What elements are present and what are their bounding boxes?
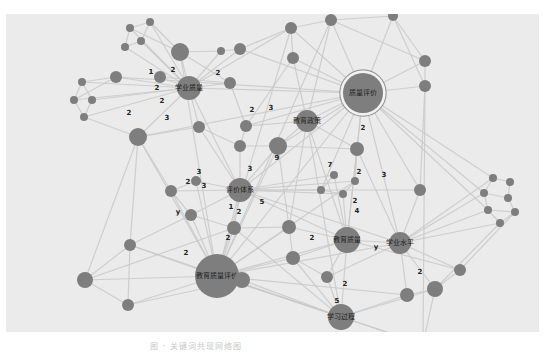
graph-node[interactable] [269,137,287,155]
graph-node[interactable] [504,194,512,202]
keyword-node[interactable]: 学业质量 [175,76,203,100]
graph-node[interactable] [282,220,296,234]
node-circle[interactable] [504,194,512,202]
graph-node[interactable] [129,128,147,146]
graph-node[interactable] [330,171,338,179]
graph-node[interactable] [124,239,136,251]
node-circle[interactable] [137,37,145,45]
node-circle[interactable] [124,239,136,251]
node-circle[interactable] [129,128,147,146]
node-circle[interactable] [80,113,88,121]
graph-node[interactable] [70,96,78,104]
graph-node[interactable] [339,190,347,198]
node-circle[interactable] [191,176,201,186]
graph-node[interactable] [414,184,426,196]
node-circle[interactable] [286,251,300,265]
node-circle[interactable] [330,171,338,179]
graph-node[interactable] [80,113,88,121]
graph-node[interactable] [165,185,177,197]
node-circle[interactable] [350,142,364,156]
graph-node[interactable] [185,209,197,221]
graph-node[interactable] [511,208,519,216]
node-circle[interactable] [480,189,488,197]
graph-node[interactable] [325,14,337,26]
node-circle[interactable] [185,209,197,221]
node-circle[interactable] [78,78,86,86]
graph-node[interactable] [285,22,297,34]
graph-node[interactable] [126,24,134,32]
graph-node[interactable] [350,142,364,156]
graph-node[interactable] [480,189,488,197]
node-circle[interactable] [165,185,177,197]
graph-node[interactable] [506,178,514,186]
graph-node[interactable] [427,281,443,297]
node-circle[interactable] [414,184,426,196]
graph-node[interactable] [419,55,431,67]
graph-node[interactable] [137,37,145,45]
graph-node[interactable] [317,186,325,194]
node-circle[interactable] [234,140,246,152]
node-circle[interactable] [110,71,122,83]
node-circle[interactable] [325,14,337,26]
node-circle[interactable] [287,52,299,64]
graph-node[interactable] [454,264,466,276]
keyword-node[interactable]: 学业水平 [386,232,414,254]
node-circle[interactable] [321,271,333,283]
node-circle[interactable] [419,80,431,92]
graph-node[interactable] [146,18,154,26]
graph-node[interactable] [193,121,205,133]
graph-node[interactable] [217,47,225,55]
node-circle[interactable] [126,24,134,32]
node-circle[interactable] [489,174,497,182]
node-circle[interactable] [234,43,246,55]
node-circle[interactable] [454,264,466,276]
graph-node[interactable] [88,96,96,104]
node-circle[interactable] [77,272,93,288]
node-circle[interactable] [269,137,287,155]
graph-node[interactable] [110,71,122,83]
graph-node[interactable] [78,78,86,86]
graph-node[interactable] [489,174,497,182]
node-circle[interactable] [121,43,129,51]
node-circle[interactable] [146,18,154,26]
node-circle[interactable] [496,219,504,227]
node-circle[interactable] [227,221,241,235]
graph-node[interactable] [234,272,250,288]
node-circle[interactable] [224,77,236,89]
node-circle[interactable] [282,220,296,234]
graph-node[interactable] [484,206,492,214]
graph-node[interactable] [234,140,246,152]
keyword-node[interactable]: 学习过程 [327,304,355,330]
node-circle[interactable] [511,208,519,216]
node-circle[interactable] [70,96,78,104]
node-circle[interactable] [285,22,297,34]
node-circle[interactable] [351,177,359,185]
node-circle[interactable] [339,190,347,198]
graph-node[interactable] [234,43,246,55]
node-circle[interactable] [122,299,134,311]
graph-node[interactable] [77,272,93,288]
keyword-node[interactable]: 质量评价 [340,70,386,116]
graph-node[interactable] [191,176,201,186]
graph-node[interactable] [227,221,241,235]
node-circle[interactable] [317,186,325,194]
node-circle[interactable] [400,288,414,302]
node-circle[interactable] [154,71,166,83]
graph-node[interactable] [121,43,129,51]
node-circle[interactable] [427,281,443,297]
node-circle[interactable] [484,206,492,214]
graph-node[interactable] [171,43,189,61]
graph-node[interactable] [240,120,252,132]
node-circle[interactable] [193,121,205,133]
graph-node[interactable] [287,52,299,64]
graph-node[interactable] [154,71,166,83]
node-circle[interactable] [171,43,189,61]
node-circle[interactable] [419,55,431,67]
graph-node[interactable] [419,80,431,92]
graph-node[interactable] [224,77,236,89]
keyword-node[interactable]: 教育质量评价 [195,254,239,298]
graph-node[interactable] [122,299,134,311]
keyword-node[interactable]: 教育质量 [333,227,361,253]
graph-node[interactable] [351,177,359,185]
graph-node[interactable] [496,219,504,227]
